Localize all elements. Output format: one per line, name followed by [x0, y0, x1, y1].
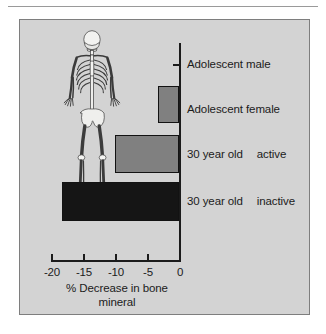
plot-area: -20 -15 -10 -5 0 Adolescent male Adolesc…: [20, 20, 309, 314]
category-label-adolescent-female: Adolescent female: [187, 103, 280, 115]
x-tick-label: 0: [163, 266, 197, 278]
x-axis-title: % Decrease in bone mineral: [42, 281, 192, 309]
category-label-text: Adolescent male: [187, 58, 271, 70]
category-label-adolescent-male: Adolescent male: [187, 58, 271, 70]
category-label-30-year-old-active: 30 year oldactive: [187, 148, 286, 160]
category-label-30-year-old-inactive: 30 year oldinactive: [187, 195, 295, 207]
bar-30-year-old-active: [115, 135, 179, 173]
x-tick-mark: [147, 254, 149, 261]
x-axis-title-line1: % Decrease in bone: [42, 281, 192, 295]
bar-adolescent-female: [158, 86, 179, 123]
x-tick-label: -5: [131, 266, 165, 278]
top-divider-rule: [8, 6, 318, 7]
category-label-text: 30 year old: [187, 195, 243, 207]
y-tick-mark: [173, 64, 180, 66]
skeleton-illustration: [56, 29, 128, 207]
x-tick-mark: [115, 254, 117, 261]
x-tick-label: -15: [67, 266, 101, 278]
category-label-suffix: active: [257, 148, 286, 160]
y-axis-line: [179, 43, 181, 261]
x-axis-title-line2: mineral: [42, 295, 192, 309]
x-tick-mark: [51, 254, 53, 261]
category-label-text: 30 year old: [187, 148, 243, 160]
x-tick-label: -10: [99, 266, 133, 278]
x-tick-mark: [179, 254, 181, 261]
bar-30-year-old-inactive: [62, 182, 179, 221]
x-tick-mark: [83, 254, 85, 261]
x-tick-label: -20: [35, 266, 69, 278]
category-label-text: Adolescent female: [187, 103, 280, 115]
category-label-suffix: inactive: [257, 195, 295, 207]
chart-panel: -20 -15 -10 -5 0 Adolescent male Adolesc…: [19, 19, 310, 315]
